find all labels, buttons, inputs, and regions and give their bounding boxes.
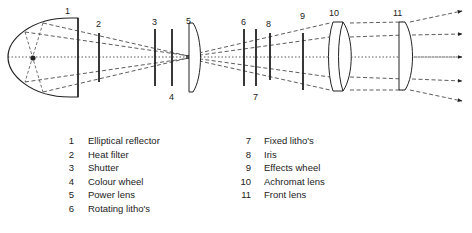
legend-item: 9Effects wheel xyxy=(228,161,325,175)
legend-label: Elliptical reflector xyxy=(88,134,160,148)
legend-left: 1Elliptical reflector 2Heat filter 3Shut… xyxy=(52,134,160,215)
legend-label: Iris xyxy=(264,148,277,162)
legend-number: 9 xyxy=(228,161,264,175)
legend-label: Fixed litho's xyxy=(264,134,314,148)
legend-number: 11 xyxy=(228,188,264,202)
legend-number: 2 xyxy=(52,148,88,162)
legend-label: Colour wheel xyxy=(88,175,143,189)
legend-item: 4Colour wheel xyxy=(52,175,160,189)
callout-3: 3 xyxy=(152,17,157,27)
legend-label: Achromat lens xyxy=(264,175,325,189)
legend-right: 7Fixed litho's 8Iris 9Effects wheel 10Ac… xyxy=(228,134,325,202)
achromat-lens xyxy=(329,22,352,91)
callout-6: 6 xyxy=(241,17,246,27)
legend-item: 11Front lens xyxy=(228,188,325,202)
callout-2: 2 xyxy=(96,19,101,29)
callout-9: 9 xyxy=(300,11,305,21)
legend-item: 8Iris xyxy=(228,148,325,162)
legend-label: Shutter xyxy=(88,161,119,175)
elliptical-reflector xyxy=(8,18,78,97)
legend-item: 5Power lens xyxy=(52,188,160,202)
legend-item: 10Achromat lens xyxy=(228,175,325,189)
legend-item: 2Heat filter xyxy=(52,148,160,162)
legend-number: 1 xyxy=(52,134,88,148)
lamp-icon xyxy=(30,55,35,60)
callout-1: 1 xyxy=(65,6,70,16)
legend-item: 1Elliptical reflector xyxy=(52,134,160,148)
legend-item: 6Rotating litho's xyxy=(52,202,160,216)
legend-number: 10 xyxy=(228,175,264,189)
legend-label: Rotating litho's xyxy=(88,202,150,216)
legend-item: 7Fixed litho's xyxy=(228,134,325,148)
legend-number: 7 xyxy=(228,134,264,148)
callout-11: 11 xyxy=(393,8,402,18)
legend-number: 4 xyxy=(52,175,88,189)
legend-label: Front lens xyxy=(264,188,306,202)
legend-number: 5 xyxy=(52,188,88,202)
callout-7: 7 xyxy=(253,92,258,102)
legend-label: Effects wheel xyxy=(264,161,320,175)
legend-number: 3 xyxy=(52,161,88,175)
legend-number: 6 xyxy=(52,202,88,216)
front-lens xyxy=(399,22,413,90)
legend-label: Power lens xyxy=(88,188,135,202)
callout-10: 10 xyxy=(329,8,339,18)
power-lens xyxy=(189,23,201,92)
optical-diagram: 1 2 3 4 5 6 7 8 9 10 11 xyxy=(0,0,472,125)
legend-label: Heat filter xyxy=(88,148,129,162)
legend-number: 8 xyxy=(228,148,264,162)
callout-8: 8 xyxy=(266,19,271,29)
callout-5: 5 xyxy=(186,16,191,26)
callout-numbers: 1 2 3 4 5 6 7 8 9 10 11 xyxy=(65,6,402,102)
callout-4: 4 xyxy=(169,92,174,102)
legend-item: 3Shutter xyxy=(52,161,160,175)
